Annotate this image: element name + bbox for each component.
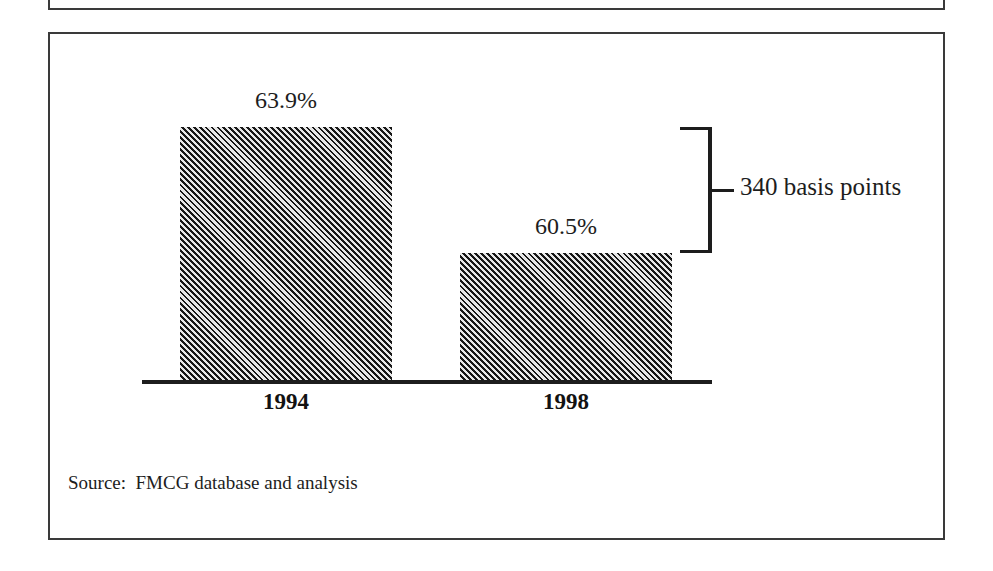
value-label-1998: 60.5% (460, 213, 672, 240)
category-label-1998: 1998 (460, 389, 672, 415)
delta-bracket-icon (680, 127, 712, 253)
preceding-exhibit-box-partial (48, 0, 945, 10)
value-label-1994: 63.9% (180, 87, 392, 114)
source-note: Source: FMCG database and analysis (68, 472, 358, 494)
bar-group (50, 127, 750, 382)
bar-1998 (460, 253, 672, 382)
delta-annotation-label: 340 basis points (740, 173, 901, 201)
chart-plot-area: 63.9% 60.5% 1994 1998 340 basis points (50, 34, 943, 538)
category-label-1994: 1994 (180, 389, 392, 415)
bar-1994 (180, 127, 392, 382)
bracket-stem (712, 189, 734, 192)
bracket-arm-bottom (680, 250, 712, 253)
exhibit-frame: 63.9% 60.5% 1994 1998 340 basis points S… (48, 32, 945, 540)
x-axis-baseline (142, 380, 712, 384)
